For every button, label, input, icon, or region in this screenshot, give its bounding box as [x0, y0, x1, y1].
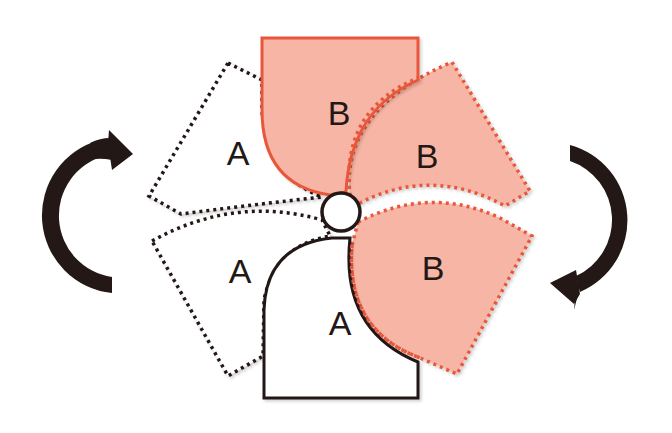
label-b-solid: B [328, 94, 351, 132]
label-a-lower: A [229, 252, 252, 290]
label-a-solid: A [329, 304, 352, 342]
label-a-upper: A [227, 134, 250, 172]
rotate-arrow-right-icon [550, 145, 627, 310]
rotation-diagram: A A B B B A [0, 0, 672, 433]
label-b-upper: B [416, 137, 439, 175]
rotate-arrow-left-icon [42, 130, 133, 293]
label-b-lower: B [422, 249, 445, 287]
pivot-circle [322, 193, 360, 231]
